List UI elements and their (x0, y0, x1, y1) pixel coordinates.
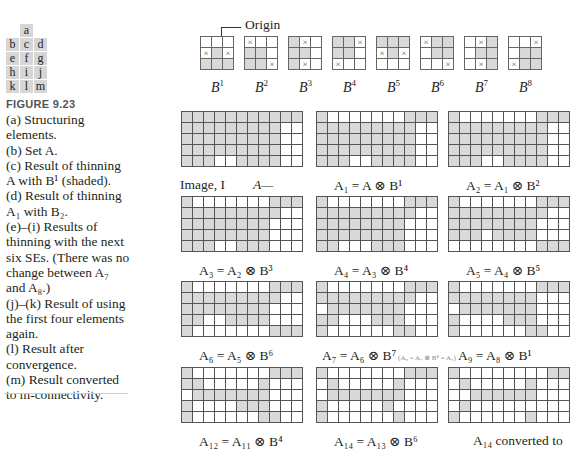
thinning-panel (181, 111, 303, 167)
se-label: B8 (508, 78, 543, 96)
figure-caption: (a) Structuringelements.(b) Set A.(c) Re… (6, 112, 176, 403)
caption-line: (e)–(i) Results of (6, 219, 176, 234)
panel-label: A₁₄ converted to (473, 433, 563, 449)
structuring-element: ××B6 (420, 36, 454, 70)
panel-letter: j (34, 66, 47, 79)
thinning-panel (448, 281, 570, 337)
se-label: B7 (464, 78, 499, 96)
structuring-element: ××B7 (464, 36, 498, 70)
panel-letter: e (6, 52, 19, 65)
panel-letter: h (6, 66, 19, 79)
panel-label: A₃ = A₂ ⊗ B³ (199, 262, 273, 279)
structuring-element: ××B2 (244, 36, 278, 70)
thinning-panel (181, 281, 303, 337)
panel-label: A₄ = A₃ ⊗ B⁴ (334, 262, 408, 279)
panel-letter: d (34, 38, 47, 51)
panel-letter (34, 24, 47, 37)
panel-letter: b (6, 38, 19, 51)
panel-label: A₁₂ = A₁₁ ⊗ B⁴ (199, 433, 283, 450)
caption-line: again. (6, 326, 176, 341)
se-label: B3 (288, 78, 323, 96)
caption-line: (a) Structuring (6, 112, 176, 127)
panel-letter: a (20, 24, 33, 37)
set-a-pointer: A— (253, 177, 273, 193)
caption-line: the first four elements (6, 311, 176, 326)
panel-label: A₆ = A₅ ⊗ B⁶ (199, 347, 273, 364)
origin-pointer (221, 27, 241, 28)
thinning-panel (181, 196, 303, 252)
structuring-element: ××B1 (200, 36, 234, 70)
caption-line: (m) Result converted (6, 372, 176, 387)
panel-letter: l (20, 80, 33, 93)
origin-label: Origin (245, 17, 280, 33)
se-label: B4 (332, 78, 367, 96)
thinning-panel (316, 111, 438, 167)
caption-line: (j)–(k) Result of using (6, 296, 176, 311)
caption-line: to m-connectivity. (6, 387, 176, 402)
structuring-element: ××B4 (332, 36, 366, 70)
panel-label: A₉ = A₈ ⊗ B¹ (458, 347, 532, 364)
panel-letter (6, 24, 19, 37)
caption-line: A with B¹ (shaded). (6, 173, 176, 188)
se-label: B6 (420, 78, 455, 96)
thinning-panel (448, 111, 570, 167)
panel-letter-grid: abcdefghijklm (6, 24, 48, 94)
caption-line: (l) Result after (6, 341, 176, 356)
se-label: B2 (244, 78, 279, 96)
caption-line: convergence. (6, 357, 176, 372)
thinning-panel (448, 196, 570, 252)
panel-label: A₁ = A ⊗ B¹ (334, 177, 402, 194)
thinning-panel (448, 367, 570, 423)
panel-letter: c (20, 38, 33, 51)
panel-letter: g (34, 52, 47, 65)
thinning-panel (181, 367, 303, 423)
structuring-element: ××B3 (288, 36, 322, 70)
panel-letter: k (6, 80, 19, 93)
panel-label: Image, I (180, 177, 225, 193)
structuring-element: ××B8 (508, 36, 542, 70)
panel-label: A₇ = A₆ ⊗ B⁷ (A₈ = A₇ ⊗ B⁸ = A₇) (322, 347, 456, 364)
caption-line: (d) Result of thinning (6, 188, 176, 203)
panel-letter: f (20, 52, 33, 65)
thinning-panel (316, 281, 438, 337)
structuring-element: ××B5 (376, 36, 410, 70)
panel-letter: i (20, 66, 33, 79)
caption-line: elements. (6, 127, 176, 142)
se-label: B5 (376, 78, 411, 96)
panel-letter: m (34, 80, 47, 93)
panel-label: A₅ = A₄ ⊗ B⁵ (466, 262, 540, 279)
thinning-panel (316, 196, 438, 252)
caption-line: (c) Result of thinning (6, 158, 176, 173)
caption-line: thinning with the next (6, 234, 176, 249)
caption-line: and A₈.) (6, 280, 176, 295)
panel-label: A₂ = A₁ ⊗ B² (466, 177, 540, 194)
panel-label: A₁₄ = A₁₃ ⊗ B⁶ (334, 433, 418, 450)
caption-divider (4, 393, 128, 394)
thinning-panel (316, 367, 438, 423)
caption-line: (b) Set A. (6, 143, 176, 158)
se-label: B1 (200, 78, 235, 96)
caption-line: A₁ with B₂. (6, 204, 176, 219)
figure-number: FIGURE 9.23 (6, 98, 75, 110)
caption-line: change between A₇ (6, 265, 176, 280)
caption-line: six SEs. (There was no (6, 250, 176, 265)
